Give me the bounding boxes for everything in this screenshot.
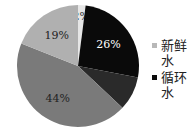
legend-label: 新鲜水 [161,38,187,68]
slice-label: 19% [45,29,69,42]
pie-chart: 2%26%44%19% [0,0,150,135]
legend: 新鲜水 循环水 [152,38,187,102]
legend-item-fresh-water: 新鲜水 [152,38,187,68]
slice-label: 26% [96,38,120,51]
legend-item-circulating-water: 循环水 [152,70,187,100]
legend-swatch-fresh-water [152,43,157,48]
legend-label: 循环水 [161,70,187,100]
slice-label: 44% [46,92,70,105]
legend-swatch-circulating-water [152,75,157,80]
